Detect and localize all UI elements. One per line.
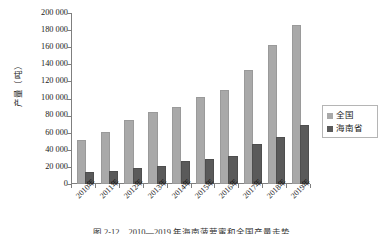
y-axis-tick-mark [67,81,71,82]
figure-caption: 图 2-12 2010—2019 年海南菠萝蜜和全国产量走势 [0,227,383,234]
y-axis-tick-label: 140 000 [14,60,68,68]
y-axis-tick-mark [67,99,71,100]
y-axis-tick-label: 0 [14,180,68,188]
y-axis-tick-label: 20 000 [14,163,68,171]
y-axis-tick-label: 60 000 [14,129,68,137]
bar-group [77,13,93,184]
y-axis-tick-mark [67,13,71,14]
legend-swatch-icon [327,113,333,119]
y-axis-tick-label: 120 000 [14,77,68,85]
y-axis-tick-mark [67,47,71,48]
chart-legend: 全国海南省 [322,105,378,138]
y-axis-tick-label: 40 000 [14,146,68,154]
y-axis-tick-label: 200 000 [14,9,68,17]
y-axis-tick-mark [67,133,71,134]
figure-container: 产量（吨） 200 000180 000160 000140 000120 00… [0,0,383,234]
legend-label: 海南省 [336,124,363,133]
y-axis-line [71,13,72,184]
y-axis-tick-mark [67,167,71,168]
legend-item[interactable]: 海南省 [327,122,374,135]
bar-group [196,13,212,184]
bar-group [172,13,188,184]
bar-group [101,13,117,184]
bar-group [124,13,140,184]
y-axis-tick-labels: 200 000180 000160 000140 000120 000100 0… [14,0,68,200]
bar-hainan[interactable] [300,125,309,184]
bar-group [220,13,236,184]
y-axis-tick-mark [67,150,71,151]
legend-item[interactable]: 全国 [327,109,374,122]
y-axis-tick-mark [67,64,71,65]
y-axis-tick-mark [67,116,71,117]
legend-label: 全国 [336,111,354,120]
y-axis-tick-label: 180 000 [14,26,68,34]
y-axis-tick-mark [67,30,71,31]
y-axis-tick-label: 100 000 [14,94,68,102]
bar-group [292,13,308,184]
y-axis-tick-label: 80 000 [14,111,68,119]
legend-swatch-icon [327,126,333,132]
bar-group [268,13,284,184]
bar-group [244,13,260,184]
plot-area [71,13,310,184]
x-axis-tick-labels: 2010年2011年2012年2013年2014年2015年2016年2017年… [0,188,383,228]
y-axis-tick-label: 160 000 [14,43,68,51]
bar-group [148,13,164,184]
